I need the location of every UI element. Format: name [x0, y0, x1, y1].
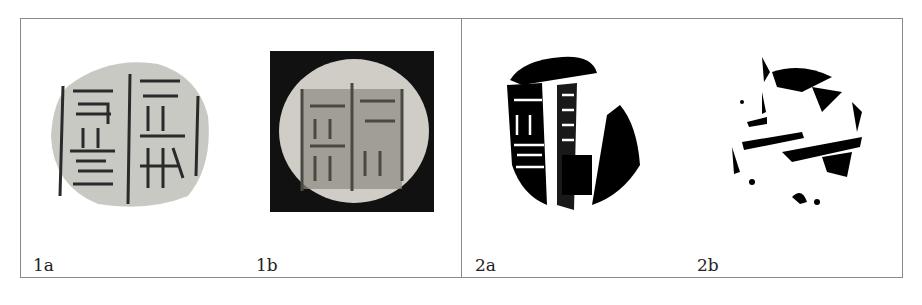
panel-label-2b: 2b: [697, 255, 719, 275]
panel-label-1a: 1a: [33, 255, 54, 275]
figure-2b-image: [722, 52, 872, 212]
panel-label-2a: 2a: [475, 255, 496, 275]
figure-1a-image: [48, 56, 212, 208]
panel-label-1b: 1b: [256, 255, 278, 275]
figure-2a-image: [502, 55, 642, 213]
figure-1b-image: [270, 51, 434, 212]
panel-divider: [461, 18, 462, 278]
